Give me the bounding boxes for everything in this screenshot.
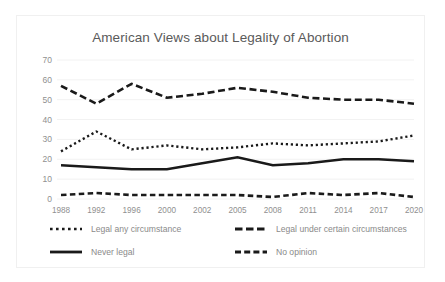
- x-axis-tick-label: 2000: [158, 206, 177, 215]
- chart-series-line: [61, 193, 414, 197]
- x-axis-tick-label: 2002: [193, 206, 212, 215]
- chart-series-line: [61, 131, 414, 151]
- y-axis-tick-label: 40: [43, 115, 53, 125]
- chart-legend: Legal any circumstance Legal under certa…: [17, 219, 424, 267]
- legend-item-legal-any-circumstance[interactable]: Legal any circumstance: [49, 219, 181, 239]
- y-axis-tick-label: 30: [43, 134, 53, 144]
- x-axis-tick-label: 2014: [334, 206, 353, 215]
- legend-row-2: Never legal No opinion: [17, 242, 424, 262]
- x-axis-tick-label: 1992: [87, 206, 106, 215]
- chart-series-line: [61, 84, 414, 104]
- y-axis-tick-label: 10: [43, 174, 53, 184]
- legend-swatch-dotted-icon: [49, 224, 83, 234]
- y-axis-tick-label: 50: [43, 95, 53, 105]
- legend-item-never-legal[interactable]: Never legal: [49, 242, 134, 262]
- legend-item-no-opinion[interactable]: No opinion: [234, 242, 317, 262]
- y-axis-tick-label: 60: [43, 75, 53, 85]
- y-axis-tick-label: 0: [47, 194, 52, 204]
- chart-card: American Views about Legality of Abortio…: [16, 15, 425, 268]
- y-axis-tick-label: 20: [43, 154, 53, 164]
- legend-label: Legal under certain circumstances: [276, 224, 407, 234]
- x-axis-tick-label: 2011: [299, 206, 317, 215]
- x-axis-tick-label: 2020: [405, 206, 424, 215]
- legend-swatch-dashed-short-icon: [234, 247, 268, 257]
- legend-label: No opinion: [276, 247, 317, 257]
- x-axis-tick-label: 2005: [228, 206, 247, 215]
- chart-plot-area: 0102030405060701988199219962000200220052…: [17, 16, 426, 221]
- legend-swatch-solid-icon: [49, 247, 83, 257]
- y-axis-tick-label: 70: [43, 55, 53, 65]
- legend-item-legal-under-certain-circumstances[interactable]: Legal under certain circumstances: [234, 219, 407, 239]
- legend-label: Legal any circumstance: [91, 224, 181, 234]
- legend-swatch-dashed-icon: [234, 224, 268, 234]
- x-axis-tick-label: 1988: [52, 206, 71, 215]
- legend-label: Never legal: [91, 247, 134, 257]
- x-axis-tick-label: 1996: [122, 206, 141, 215]
- x-axis-tick-label: 2017: [370, 206, 389, 215]
- x-axis-tick-label: 2008: [264, 206, 283, 215]
- legend-row-1: Legal any circumstance Legal under certa…: [17, 219, 424, 239]
